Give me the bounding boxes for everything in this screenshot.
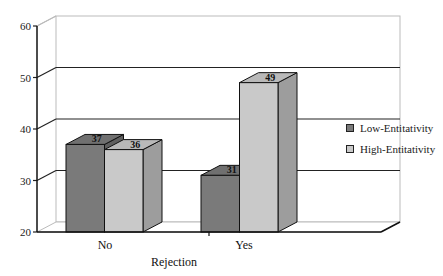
- x-category-label: Yes: [235, 238, 253, 252]
- bar-low-entitativity-no: [66, 144, 105, 232]
- gridline-diagonal: [37, 119, 56, 129]
- x-axis-title: Rejection: [151, 255, 197, 269]
- bar-high-entitativity-no: [105, 150, 144, 232]
- bar-side: [278, 73, 297, 232]
- bar-side: [143, 140, 162, 232]
- data-label: 31: [227, 164, 237, 175]
- legend: Low-Entitativity High-Entitativity: [346, 117, 435, 159]
- bar-high-entitativity-yes: [240, 83, 279, 232]
- legend-label-low: Low-Entitativity: [360, 122, 433, 134]
- legend-label-high: High-Entitativity: [360, 143, 435, 155]
- y-tick-label: 40: [20, 123, 32, 135]
- bar-low-entitativity-yes: [201, 175, 240, 232]
- x-category-label: No: [98, 238, 113, 252]
- y-tick-label: 20: [20, 226, 32, 238]
- y-tick-label: 60: [20, 20, 32, 32]
- data-label: 37: [92, 133, 102, 144]
- data-label: 49: [265, 72, 275, 83]
- legend-swatch-high: [346, 145, 354, 153]
- gridline-diagonal: [37, 68, 56, 78]
- legend-item-low-entitativity: Low-Entitativity: [346, 117, 435, 138]
- y-tick-label: 30: [20, 175, 32, 187]
- legend-swatch-low: [346, 124, 354, 132]
- y-tick-label: 50: [20, 72, 32, 84]
- gridline-diagonal: [37, 16, 56, 26]
- data-label: 36: [130, 139, 140, 150]
- legend-item-high-entitativity: High-Entitativity: [346, 138, 435, 159]
- gridline-diagonal: [37, 171, 56, 181]
